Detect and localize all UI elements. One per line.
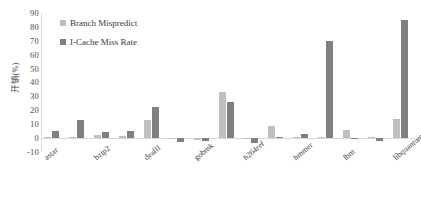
y-tick-label: 40 xyxy=(1,78,39,87)
bar xyxy=(169,138,176,139)
bar xyxy=(401,20,408,138)
y-tick-label: 70 xyxy=(1,37,39,46)
y-tick-label: 30 xyxy=(1,92,39,101)
bar xyxy=(119,136,126,138)
bar xyxy=(77,120,84,138)
y-tick-label: 20 xyxy=(1,106,39,115)
bar xyxy=(202,138,209,141)
bar xyxy=(268,126,275,139)
bar-group: mcf xyxy=(240,0,265,204)
bar-group: astar xyxy=(41,0,66,204)
bar-group: xalan xyxy=(390,0,415,204)
bar xyxy=(351,138,358,139)
y-tick-label: 0 xyxy=(1,134,39,143)
bar-group: libquantum xyxy=(216,0,241,204)
bar-group: sphinx xyxy=(365,0,390,204)
y-axis-title: 开销(%) xyxy=(8,48,20,108)
y-tick-label: 90 xyxy=(1,9,39,18)
bar xyxy=(219,92,226,138)
bar xyxy=(144,120,151,138)
bar xyxy=(376,138,383,141)
bar xyxy=(227,102,234,138)
bar xyxy=(393,119,400,138)
bar xyxy=(326,41,333,138)
bar-group: sjeng xyxy=(315,0,340,204)
bar xyxy=(94,135,101,138)
bar-chart: 9080706050403020100-10 开销(%) Branch Misp… xyxy=(0,0,421,204)
x-tick-label: astar xyxy=(43,146,60,162)
bar xyxy=(343,130,350,138)
bar xyxy=(52,131,59,138)
bar-group: namd xyxy=(290,0,315,204)
y-tick-label: 80 xyxy=(1,23,39,32)
bar xyxy=(251,138,258,143)
bar xyxy=(177,138,184,142)
bar-group: milc xyxy=(265,0,290,204)
bar xyxy=(44,137,51,138)
bar xyxy=(69,137,76,138)
y-tick-label: 50 xyxy=(1,65,39,74)
bar xyxy=(102,132,109,138)
bar xyxy=(293,137,300,138)
bar-group: soplex xyxy=(340,0,365,204)
bar xyxy=(152,107,159,138)
bar-group: bzip2 xyxy=(66,0,91,204)
bar xyxy=(243,138,250,139)
bar-group: h264ref xyxy=(141,0,166,204)
bar-group: gobmk xyxy=(116,0,141,204)
bar-groups: astarbzip2dealIIgobmkh264refhmmerlbmlibq… xyxy=(41,0,415,204)
bar xyxy=(276,137,283,138)
bar xyxy=(301,134,308,138)
bar-group: dealII xyxy=(91,0,116,204)
bar xyxy=(318,137,325,138)
bar xyxy=(368,137,375,138)
bar xyxy=(194,138,201,140)
y-tick-label: 10 xyxy=(1,120,39,129)
bar-group: hmmer xyxy=(166,0,191,204)
bar-group: lbm xyxy=(191,0,216,204)
y-tick-label: -10 xyxy=(1,148,39,157)
bar xyxy=(127,131,134,138)
y-tick-label: 60 xyxy=(1,51,39,60)
